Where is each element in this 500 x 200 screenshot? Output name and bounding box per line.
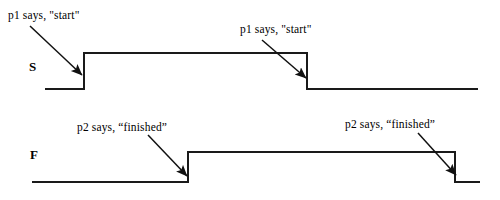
annotation-arrow-f-fall-label: [418, 133, 456, 175]
annotation-arrow-s-fall-label: [262, 40, 306, 78]
waveform-f: [32, 152, 480, 182]
annotation-label-s-rise: p1 says, "start": [8, 10, 80, 22]
annotation-arrow-s-rise-label: [30, 26, 82, 75]
signal-label-f: F: [30, 148, 38, 161]
annotation-label-f-fall: p2 says, “finished”: [345, 119, 435, 131]
annotation-arrow-f-rise-label: [148, 135, 187, 176]
annotation-arrow-group: [30, 26, 456, 176]
annotation-label-s-fall: p1 says, "start": [240, 24, 312, 36]
timing-diagram-figure: S F p1 says, "start" p1 says, "start" p2…: [0, 0, 500, 200]
signal-label-s: S: [29, 60, 36, 73]
annotation-label-f-rise: p2 says, “finished”: [77, 122, 167, 134]
waveform-s: [45, 53, 478, 89]
